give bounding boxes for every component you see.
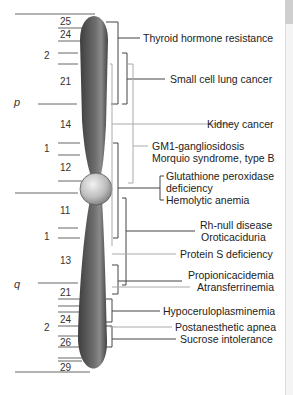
q-arm-label: q [14, 278, 20, 290]
disease-label: Oroticaciduria [201, 231, 266, 243]
band-label: 2 [44, 51, 50, 61]
band-label: 2 [44, 323, 50, 333]
band-label: 21 [60, 288, 71, 298]
disease-label: Sucrose intolerance [180, 333, 273, 345]
disease-label: Morquio syndrome, type B [152, 152, 275, 164]
band-label: 24 [60, 30, 71, 40]
disease-label: deficiency [166, 182, 213, 194]
chromosome-diagram: p q 25 24 2 21 14 1 12 11 1 13 21 24 2 2… [0, 0, 293, 395]
disease-label: Rh-null disease [200, 219, 272, 231]
band-label: 21 [60, 77, 71, 87]
band-label: 1 [44, 232, 50, 242]
band-label: 25 [60, 17, 71, 27]
disease-label: Thyroid hormone resistance [143, 32, 273, 44]
band-label: 1 [44, 144, 50, 154]
disease-label: Postanesthetic apnea [175, 321, 276, 333]
p-arm-label: p [14, 96, 20, 108]
disease-label: Protein S deficiency [180, 248, 273, 260]
band-label: 24 [60, 315, 71, 325]
band-label: 14 [60, 120, 71, 130]
band-label: 13 [60, 256, 71, 266]
scrollbar-thumb[interactable] [285, 0, 293, 24]
disease-label: Hemolytic anemia [166, 194, 249, 206]
disease-label: Glutathione peroxidase [166, 170, 274, 182]
band-label: 11 [60, 206, 70, 216]
disease-label: Small cell lung cancer [170, 73, 272, 85]
disease-label: GM1-gangliosidosis [152, 140, 244, 152]
disease-label: Hypoceruloplasminemia [163, 305, 275, 317]
disease-label: Kidney cancer [207, 118, 274, 130]
band-label: 12 [60, 163, 71, 173]
scrollbar-track[interactable] [285, 0, 293, 395]
disease-label: Propionicacidemia [188, 269, 274, 281]
band-label: 26 [60, 338, 71, 348]
disease-label: Atransferrinemia [197, 281, 274, 293]
band-label: 29 [60, 363, 71, 373]
